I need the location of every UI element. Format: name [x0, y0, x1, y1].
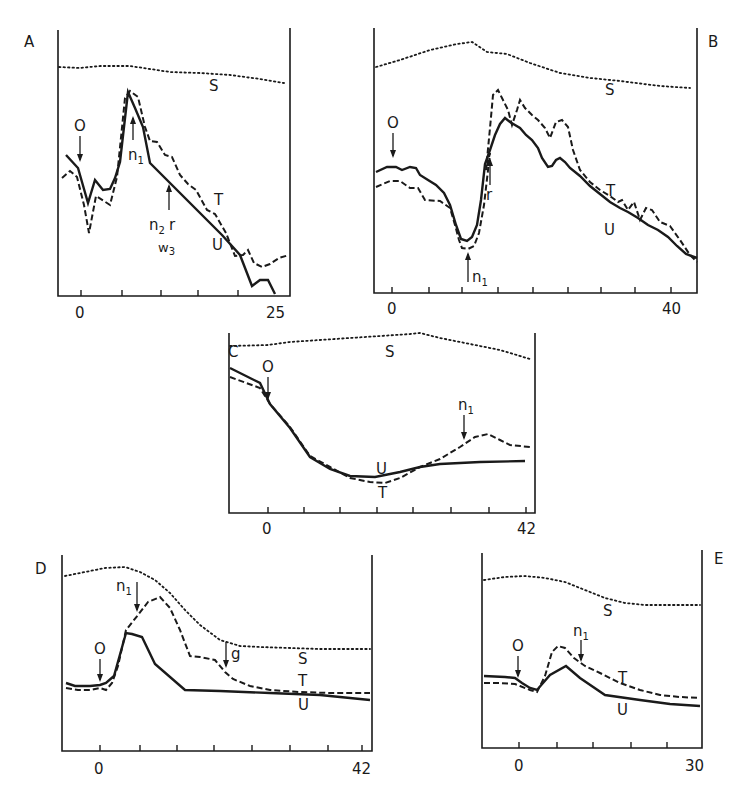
panel-e-u-label: U — [617, 701, 628, 719]
panel-d-n1-arrowhead — [134, 604, 140, 612]
panel-c-u-label: U — [376, 460, 387, 478]
panel-d-xend-label: 42 — [352, 760, 371, 778]
panel-b-n1-arrowhead — [465, 252, 471, 260]
panel-c-o-label: O — [262, 358, 274, 376]
panel-e: E 0 30 O n1 S T U — [482, 550, 723, 775]
panel-b-ticks — [392, 287, 671, 293]
panel-d-t-label: T — [297, 672, 308, 690]
figure-canvas: A 0 25 O n1 n2r w3 S T U B — [0, 0, 749, 794]
panel-a-ticks — [81, 290, 238, 296]
panel-a-w3-label: w3 — [158, 240, 175, 257]
panel-e-ticks — [519, 742, 667, 748]
panel-d-x0-label: 0 — [94, 760, 104, 778]
panel-b-series-s — [376, 42, 690, 88]
panel-b-n1-label: n1 — [472, 268, 488, 288]
panel-d-ticks — [100, 745, 362, 751]
panel-c-n1-label: n1 — [458, 396, 474, 416]
panel-d-g-arrowhead — [223, 660, 229, 668]
panel-c-s-label: S — [385, 343, 395, 361]
panel-c-t-label: T — [377, 484, 388, 502]
panel-a-x0-label: 0 — [75, 304, 85, 322]
panel-d-g-label: g — [231, 645, 241, 663]
panel-b-r-label: r — [486, 186, 493, 204]
panel-c-ticks — [268, 507, 526, 513]
panel-c: C 0 42 O n1 S U T — [228, 333, 536, 538]
panel-a-xend-label: 25 — [266, 304, 285, 322]
panel-d-series-u — [66, 633, 370, 700]
panel-b-title: B — [708, 33, 718, 51]
panel-b-u-label: U — [604, 221, 615, 239]
panel-c-xend-label: 42 — [517, 520, 536, 538]
panel-c-series-s — [230, 333, 530, 359]
panel-b-o-arrowhead — [390, 150, 396, 158]
panel-b: B 0 40 O n1 r S T U — [374, 28, 718, 318]
panel-e-series-s — [484, 576, 700, 605]
panel-a-title: A — [24, 33, 35, 51]
panel-e-o-arrowhead — [515, 670, 521, 678]
panel-b-xend-label: 40 — [662, 300, 681, 318]
panel-a-s-label: S — [209, 77, 219, 95]
panel-d-series-s — [65, 567, 370, 649]
panel-a-series-s — [59, 66, 284, 83]
panel-a-o-label: O — [74, 117, 86, 135]
panel-e-s-label: S — [603, 602, 613, 620]
panel-e-title: E — [714, 550, 723, 568]
panel-a-o-arrowhead — [77, 154, 83, 162]
panel-a-series-t — [62, 91, 289, 267]
panel-b-series-t — [376, 90, 697, 262]
panel-b-series-u — [376, 118, 697, 258]
panel-d-title: D — [35, 560, 47, 578]
panel-d-s-label: S — [298, 650, 308, 668]
panel-d-o-label: O — [94, 640, 106, 658]
panel-d-u-label: U — [298, 696, 309, 714]
panel-c-x0-label: 0 — [262, 520, 272, 538]
panel-b-axes — [374, 28, 697, 293]
panel-b-t-label: T — [605, 182, 616, 200]
panel-c-n1-arrowhead — [461, 432, 467, 440]
panel-d-axes — [62, 555, 372, 751]
panel-d-n1-label: n1 — [116, 577, 132, 597]
panel-d: D 0 42 O n1 g S T U — [35, 555, 372, 778]
panel-a-t-label: T — [213, 191, 224, 209]
panel-b-o-label: O — [387, 114, 399, 132]
panel-a-u-label: U — [212, 236, 223, 254]
panel-a-series-u — [66, 92, 275, 294]
panel-a-n1-arrowhead — [130, 116, 136, 124]
panel-d-o-arrowhead — [97, 674, 103, 682]
panel-e-xend-label: 30 — [685, 757, 704, 775]
panel-e-t-label: T — [617, 669, 628, 687]
panel-a: A 0 25 O n1 n2r w3 S T U — [24, 28, 290, 322]
panel-e-o-label: O — [512, 637, 524, 655]
panel-e-n1-label: n1 — [573, 622, 589, 642]
panel-b-x0-label: 0 — [387, 300, 397, 318]
panel-a-n2-label: n2r — [149, 216, 176, 236]
panel-e-n1-arrowhead — [578, 654, 584, 662]
panel-a-n1-label: n1 — [128, 146, 144, 166]
panel-e-x0-label: 0 — [514, 757, 524, 775]
panel-b-s-label: S — [605, 81, 615, 99]
